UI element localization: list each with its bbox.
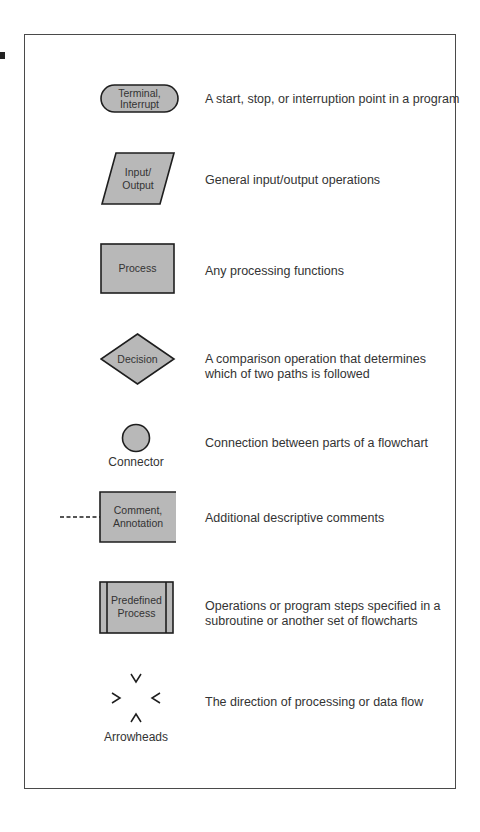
arrowheads-caption: Arrowheads [98,730,174,744]
connector-caption: Connector [98,455,174,469]
predefined-process-description: Operations or program steps specified in… [205,599,441,629]
terminal-label-1: Terminal, [118,87,161,99]
terminal-label-2: Interrupt [120,98,159,110]
comment-label-1: Comment, [114,504,162,516]
decision-description-line-1: A comparison operation that determines [205,352,426,367]
io-label-2: Output [122,179,154,191]
page-mark [0,52,5,59]
arrowheads-description: The direction of processing or data flow [205,695,423,710]
decision-label: Decision [117,353,157,365]
process-symbol: Process [100,243,176,295]
symbol-table-frame [24,34,456,789]
input-output-description: General input/output operations [205,173,380,188]
connector-description: Connection between parts of a flowchart [205,436,428,451]
predefined-description-line-1: Operations or program steps specified in… [205,599,441,614]
arrowhead-up-icon [131,714,141,722]
terminal-description: A start, stop, or interruption point in … [205,92,459,107]
process-description: Any processing functions [205,264,344,279]
decision-symbol: Decision [100,333,176,385]
decision-description: A comparison operation that determines w… [205,352,426,382]
arrowhead-right-icon [112,693,120,703]
input-output-symbol: Input/ Output [100,152,176,206]
arrowhead-down-icon [131,674,141,682]
predefined-process-symbol: Predefined Process [99,581,175,635]
comment-label-2: Annotation [113,517,163,529]
decision-description-line-2: which of two paths is followed [205,367,426,382]
connector-symbol [121,423,151,453]
predefined-label-2: Process [118,607,156,619]
io-label-1: Input/ [125,166,151,178]
predefined-label-1: Predefined [111,594,162,606]
arrowheads-symbol [110,672,162,724]
terminal-symbol: Terminal, Interrupt [100,84,180,114]
arrowhead-left-icon [152,693,160,703]
comment-symbol: Comment, Annotation [60,490,178,544]
comment-description: Additional descriptive comments [205,511,384,526]
process-label: Process [119,262,157,274]
predefined-description-line-2: subroutine or another set of flowcharts [205,614,441,629]
